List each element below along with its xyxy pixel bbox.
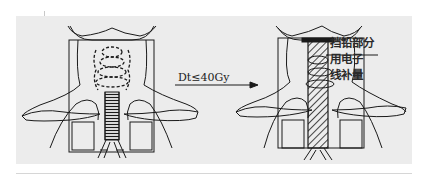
left-neck-figure [22, 26, 198, 158]
annotation-line-1: 挡铅部分 [330, 35, 374, 51]
right-neck-figure [236, 26, 406, 160]
diagram-drawing [0, 0, 436, 181]
annotation-line-2: 用电子 [330, 51, 374, 67]
annotation-line-3: 线补量 [330, 67, 374, 83]
annotation-text: 挡铅部分 用电子 线补量 [330, 35, 374, 83]
dose-label: Dt≤40Gy [178, 71, 229, 84]
